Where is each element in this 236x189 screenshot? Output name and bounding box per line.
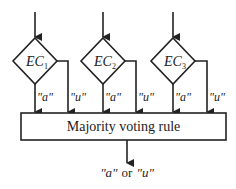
branch-u-arrow-2: [125, 61, 136, 112]
classifier-1: EC1 "a" "u": [13, 12, 87, 112]
classifier-2: EC2 "a" "u": [81, 12, 155, 112]
branch-u-label-1: "u": [70, 90, 87, 104]
branch-a-label-3: "a": [175, 90, 192, 104]
branch-u-arrow-3: [195, 61, 207, 112]
voting-diagram: EC1 "a" "u" EC2 "a" "u" EC3 "a" "u" Majo…: [0, 0, 236, 189]
majority-voting-label: Majority voting rule: [67, 119, 181, 134]
branch-u-label-3: "u": [209, 90, 226, 104]
classifier-3: EC3 "a" "u": [151, 12, 226, 112]
branch-u-label-2: "u": [138, 90, 155, 104]
branch-u-arrow-1: [57, 61, 68, 112]
branch-a-label-2: "a": [105, 90, 122, 104]
output-label: "a"or"u": [100, 165, 154, 180]
branch-a-label-1: "a": [37, 90, 54, 104]
